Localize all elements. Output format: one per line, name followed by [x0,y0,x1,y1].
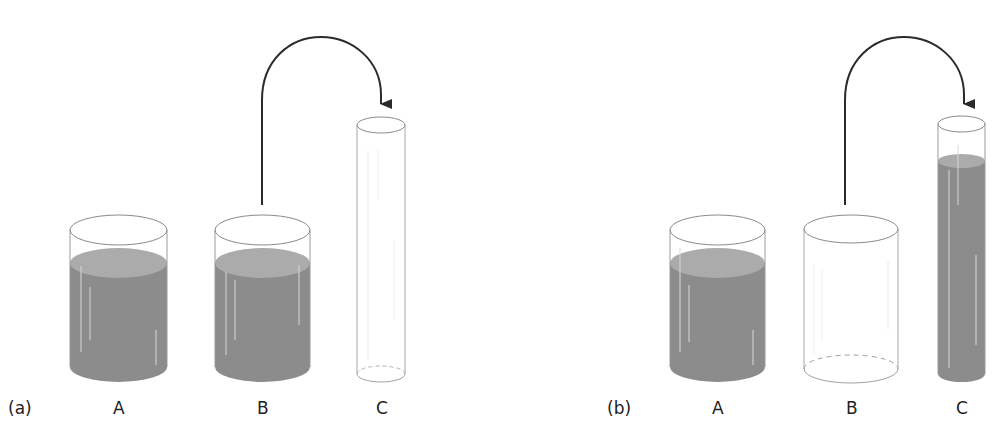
cylinder-c-panel-a [357,117,405,382]
beaker-b-panel-b [804,215,898,383]
panel-label-a: (a) [8,398,32,418]
panel-a: (a) A B C [8,37,405,418]
diagram-canvas: (a) A B C [0,0,1002,428]
container-label-c: C [956,398,968,418]
beaker-a-panel-a [70,215,167,382]
panel-label-b: (b) [607,398,631,418]
container-label-a: A [712,398,724,418]
transfer-arrow-panel-a [262,37,381,205]
beaker-a-panel-b [670,215,765,382]
cylinder-c-panel-b [938,116,985,382]
container-label-c: C [376,398,388,418]
container-label-a: A [113,398,125,418]
panel-b: (b) A B C [607,37,985,418]
beaker-b-panel-a [215,215,310,382]
container-label-b: B [846,398,858,418]
container-label-b: B [257,398,269,418]
